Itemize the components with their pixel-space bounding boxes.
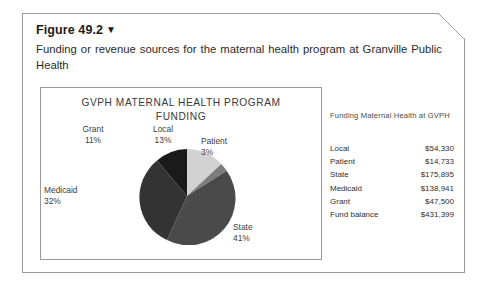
table-cell-value: $47,500	[425, 195, 454, 208]
pie-label-local-name: Local	[138, 124, 188, 135]
table-cell-label: Patient	[330, 155, 355, 168]
figure-heading-text: Figure 49.2	[36, 23, 103, 37]
table-cell-label: Fund balance	[330, 208, 378, 221]
pie-label-medicaid: Medicaid 32%	[44, 185, 104, 206]
table-row: Medicaid $138,941	[330, 182, 454, 195]
table-row: Fund balance $431,399	[330, 208, 454, 221]
chevron-down-icon: ▼	[106, 24, 116, 35]
pie-chart	[138, 147, 236, 245]
pie-chart-area: Grant 11% Local 13% Patient 3% Medicaid …	[41, 88, 323, 261]
table-cell-value: $431,399	[421, 208, 454, 221]
funding-table-header: Funding Maternal Health at GVPH	[330, 111, 454, 120]
table-cell-value: $14,733	[425, 155, 454, 168]
table-cell-value: $138,941	[421, 182, 454, 195]
figure-heading: Figure 49.2▼	[36, 23, 116, 37]
table-cell-value: $175,895	[421, 168, 454, 181]
pie-label-medicaid-value: 32%	[44, 196, 104, 207]
table-cell-label: Grant	[330, 195, 350, 208]
table-cell-label: Medicaid	[330, 182, 362, 195]
pie-label-state-name: State	[233, 222, 283, 233]
pie-label-state-value: 41%	[233, 233, 283, 244]
figure-screenshot: Figure 49.2▼ Funding or revenue sources …	[0, 0, 488, 286]
table-cell-value: $54,330	[425, 142, 454, 155]
pie-label-local-value: 13%	[138, 135, 188, 146]
table-row: Local $54,330	[330, 142, 454, 155]
pie-label-medicaid-name: Medicaid	[44, 185, 104, 196]
pie-label-grant-value: 11%	[66, 135, 120, 146]
pie-label-patient: Patient 3%	[201, 136, 255, 157]
funding-table: Funding Maternal Health at GVPH Local $5…	[330, 111, 454, 221]
pie-label-grant-name: Grant	[66, 124, 120, 135]
pie-label-patient-name: Patient	[201, 136, 255, 147]
figure-card: Figure 49.2▼ Funding or revenue sources …	[22, 13, 465, 273]
table-cell-label: State	[330, 168, 349, 181]
table-row: Grant $47,500	[330, 195, 454, 208]
pie-label-patient-value: 3%	[201, 147, 255, 158]
figure-caption: Funding or revenue sources for the mater…	[36, 42, 442, 73]
pie-label-grant: Grant 11%	[66, 124, 120, 145]
pie-label-local: Local 13%	[138, 124, 188, 145]
table-row: Patient $14,733	[330, 155, 454, 168]
table-cell-label: Local	[330, 142, 349, 155]
table-row: State $175,895	[330, 168, 454, 181]
pie-label-state: State 41%	[233, 222, 283, 243]
chart-panel: GVPH MATERNAL HEALTH PROGRAM FUNDING	[40, 87, 322, 260]
